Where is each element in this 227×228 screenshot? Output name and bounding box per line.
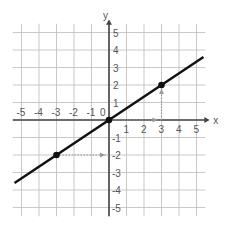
y-tick-label: 2 (113, 80, 119, 91)
x-axis-label: x (213, 115, 218, 126)
x-axis-arrow-icon (204, 117, 209, 123)
arrowhead-icon (100, 153, 105, 158)
y-tick-label: -4 (112, 185, 121, 196)
x-tick-label: -3 (52, 107, 61, 118)
data-point (158, 82, 165, 89)
data-point (53, 152, 60, 159)
x-tick-label: 4 (176, 124, 182, 135)
y-tick-label: -3 (112, 168, 121, 179)
arrowhead-icon (153, 118, 158, 123)
y-tick-label: 4 (113, 45, 119, 56)
y-tick-label: -1 (112, 133, 121, 144)
y-tick-label: 3 (113, 63, 119, 74)
x-tick-label: 1 (124, 124, 130, 135)
y-tick-label: 5 (113, 28, 119, 39)
x-tick-label: -5 (17, 107, 26, 118)
x-tick-label: 5 (194, 124, 200, 135)
arrowhead-icon (159, 89, 164, 94)
x-tick-label: 3 (159, 124, 165, 135)
data-point (106, 117, 113, 124)
x-tick-label: 2 (141, 124, 147, 135)
x-tick-label: -1 (87, 107, 96, 118)
y-tick-label: -2 (112, 150, 121, 161)
x-tick-label: -2 (69, 107, 78, 118)
coordinate-plane-chart: xy-5-4-3-2-1012345-5-4-3-2-112345 (0, 0, 227, 228)
tick-label-origin: 0 (100, 107, 106, 118)
y-tick-label: -5 (112, 203, 121, 214)
y-tick-label: 1 (113, 98, 119, 109)
x-tick-label: -4 (34, 107, 43, 118)
y-axis-label: y (103, 10, 108, 21)
